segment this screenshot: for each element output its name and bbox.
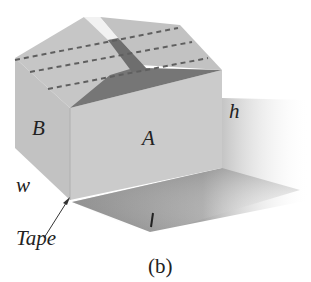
box-diagram: A B h w Tape (b) [0, 0, 311, 282]
label-face-a: A [142, 128, 155, 149]
label-height: h [229, 101, 240, 122]
label-face-b: B [32, 118, 45, 139]
label-tape: Tape [16, 228, 56, 249]
figure-caption: (b) [148, 256, 173, 277]
label-width: w [16, 175, 30, 196]
